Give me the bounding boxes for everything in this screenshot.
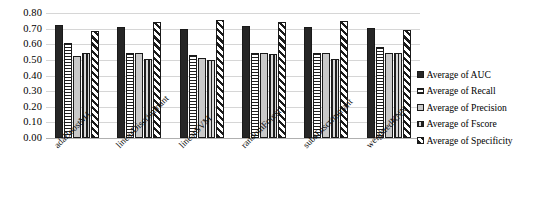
bar [207,60,215,138]
x-label-slot: linearDiscriminant [108,139,170,217]
bar [340,21,348,138]
y-tick-label: 0.00 [0,133,42,143]
bar [180,29,188,138]
y-tick-label: 0.70 [0,24,42,34]
y-axis: 0.800.700.600.500.400.300.200.100.00 [0,0,44,145]
legend-item-label: Average of Precision [427,102,507,113]
bar [91,31,99,139]
plot-area [46,13,420,138]
bar-groups [46,13,420,138]
bar [216,20,224,138]
legend-item[interactable]: Average of Recall [417,83,539,100]
bar [304,27,312,138]
bar [278,22,286,138]
y-tick-label: 0.40 [0,71,42,81]
bar [144,59,152,138]
y-tick-label: 0.20 [0,102,42,112]
legend-item[interactable]: Average of AUC [417,66,539,83]
legend-item[interactable]: Average of Specificity [417,132,539,149]
y-tick-label: 0.80 [0,8,42,18]
legend-item-label: Average of Specificity [427,135,513,146]
legend-item[interactable]: Average of Precision [417,99,539,116]
bar [117,27,125,138]
legend-item-label: Average of Fscore [427,118,497,129]
legend-swatch-icon [417,104,424,111]
legend-item[interactable]: Average of Fscore [417,116,539,133]
chart-legend: Average of AUCAverage of RecallAverage o… [417,66,539,149]
y-tick-label: 0.60 [0,39,42,49]
x-axis-category-labels: adaBoostM1linearDiscriminantlinearSVMran… [46,139,420,219]
y-tick-label: 0.10 [0,117,42,127]
y-tick-label: 0.50 [0,55,42,65]
x-label-slot: weightedKNN [358,139,420,217]
legend-swatch-icon [417,137,424,144]
legend-swatch-icon [417,88,424,95]
legend-item-label: Average of Recall [427,85,496,96]
y-tick-label: 0.30 [0,86,42,96]
x-label-slot: subsDiscriminant [295,139,357,217]
legend-swatch-icon [417,71,424,78]
bar [331,59,339,138]
bar [55,25,63,138]
bar [367,28,375,138]
bar [153,22,161,138]
bar [242,26,250,138]
x-label-slot: adaBoostM1 [46,139,108,217]
legend-swatch-icon [417,121,424,128]
bar-chart: 0.800.700.600.500.400.300.200.100.00 ada… [0,0,540,219]
x-label-slot: randomForest [233,139,295,217]
bar [403,30,411,138]
legend-item-label: Average of AUC [427,69,491,80]
x-label-slot: linearSVM [171,139,233,217]
